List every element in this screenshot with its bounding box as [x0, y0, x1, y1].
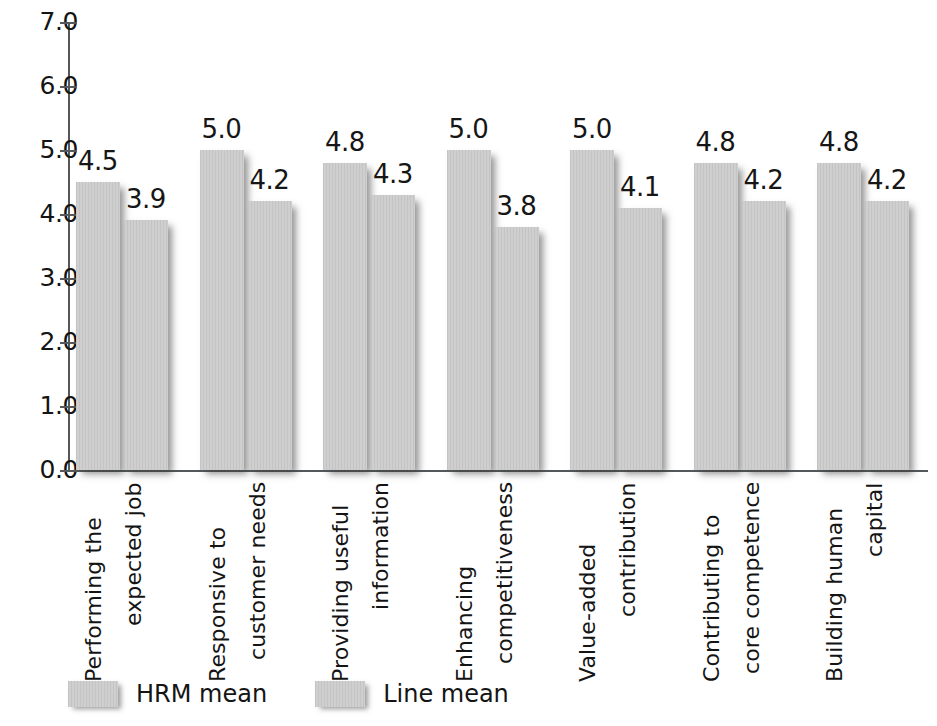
- category-label-line: Contributing to: [692, 482, 732, 682]
- y-tick-mark: [60, 342, 77, 344]
- category-label-line: customer needs: [238, 482, 278, 682]
- y-tick-mark: [60, 22, 77, 24]
- bar-value-label: 4.8: [804, 129, 874, 155]
- legend-swatch: [68, 681, 118, 707]
- category-label: Contributing tocore competence: [692, 482, 788, 682]
- bar-value-label: 3.8: [482, 193, 552, 219]
- category-label-line: Building human: [815, 482, 855, 682]
- y-tick-mark: [60, 86, 77, 88]
- y-tick: 0.0: [0, 470, 78, 472]
- bar-value-label: 3.9: [111, 186, 181, 212]
- category-label-line: Value-added: [568, 482, 608, 682]
- bar: [124, 220, 168, 470]
- category-label-line: Enhancing: [445, 482, 485, 682]
- bar-group: 4.84.2: [694, 22, 790, 470]
- category-label: Responsive tocustomer needs: [198, 482, 294, 682]
- bar: [618, 208, 662, 470]
- bar-value-label: 4.8: [310, 129, 380, 155]
- bar: [865, 201, 909, 470]
- y-tick-mark: [60, 214, 77, 216]
- bar-group: 5.03.8: [447, 22, 543, 470]
- bar: [323, 163, 367, 470]
- bar: [248, 201, 292, 470]
- category-label-line: competitiveness: [485, 482, 525, 682]
- bar-value-label: 5.0: [557, 116, 627, 142]
- category-label-line: Providing useful: [321, 482, 361, 682]
- y-tick-mark: [60, 406, 77, 408]
- y-tick: 2.0: [0, 342, 78, 344]
- bar: [495, 227, 539, 470]
- category-label-line: expected job: [114, 482, 154, 682]
- bar-group: 4.53.9: [76, 22, 172, 470]
- category-label: Value-addedcontribution: [568, 482, 664, 682]
- bar: [742, 201, 786, 470]
- y-tick: 3.0: [0, 278, 78, 280]
- y-tick-mark: [60, 470, 77, 472]
- bar-value-label: 4.2: [235, 167, 305, 193]
- bar-value-label: 4.2: [852, 167, 922, 193]
- x-axis-line: [68, 470, 928, 472]
- bar-group: 4.84.3: [323, 22, 419, 470]
- bar: [76, 182, 120, 470]
- legend-label: Line mean: [383, 682, 509, 706]
- y-tick: 1.0: [0, 406, 78, 408]
- bar-group: 5.04.2: [200, 22, 296, 470]
- bar-value-label: 4.1: [605, 174, 675, 200]
- legend-item: HRM mean: [68, 681, 267, 707]
- bar-chart: 7.06.05.04.03.02.01.00.0 4.53.95.04.24.8…: [0, 0, 937, 726]
- bar-value-label: 4.8: [681, 129, 751, 155]
- category-label-line: information: [361, 482, 401, 682]
- legend-swatch: [315, 681, 365, 707]
- bar-value-label: 4.3: [358, 161, 428, 187]
- bar: [817, 163, 861, 470]
- bar-value-label: 5.0: [187, 116, 257, 142]
- category-label: Enhancingcompetitiveness: [445, 482, 541, 682]
- category-label-line: Performing the: [74, 482, 114, 682]
- bar-value-label: 4.2: [729, 167, 799, 193]
- bar-value-label: 5.0: [434, 116, 504, 142]
- chart-legend: HRM meanLine mean: [68, 676, 557, 712]
- category-label: Providing usefulinformation: [321, 482, 417, 682]
- y-tick: 7.0: [0, 22, 78, 24]
- y-tick: 6.0: [0, 86, 78, 88]
- bar-group: 4.84.2: [817, 22, 913, 470]
- category-label-line: capital: [855, 482, 895, 682]
- legend-item: Line mean: [315, 681, 509, 707]
- bar-value-label: 4.5: [63, 148, 133, 174]
- category-label-line: contribution: [608, 482, 648, 682]
- y-tick: 4.0: [0, 214, 78, 216]
- category-label-line: Responsive to: [198, 482, 238, 682]
- bar: [371, 195, 415, 470]
- bar-group: 5.04.1: [570, 22, 666, 470]
- bar: [200, 150, 244, 470]
- legend-label: HRM mean: [136, 682, 267, 706]
- category-label-line: core competence: [732, 482, 772, 682]
- bar: [694, 163, 738, 470]
- category-label: Performing theexpected job: [74, 482, 170, 682]
- y-tick-mark: [60, 278, 77, 280]
- category-label: Building humancapital: [815, 482, 911, 682]
